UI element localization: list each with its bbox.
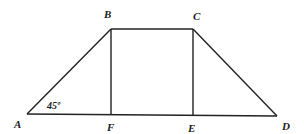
segment-ab	[27, 29, 111, 114]
segment-cd	[193, 29, 277, 116]
trapezoid-diagram: B C A F E D 45º	[0, 0, 304, 134]
angle-label-a: 45º	[46, 100, 61, 111]
label-f: F	[106, 121, 115, 133]
segments	[27, 29, 277, 116]
segment-ad	[27, 114, 277, 116]
label-e: E	[187, 122, 195, 134]
label-c: C	[193, 10, 201, 22]
label-d: D	[281, 120, 290, 132]
label-b: B	[103, 8, 111, 20]
label-a: A	[13, 118, 21, 130]
